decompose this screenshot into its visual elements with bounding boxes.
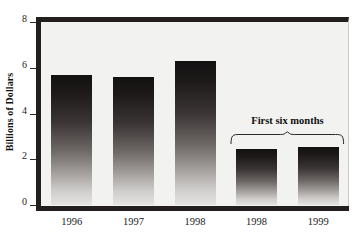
bar — [51, 75, 92, 205]
x-axis-label: 1998 — [226, 216, 288, 227]
y-axis-tick: 2 — [0, 159, 36, 160]
y-axis-tick-label: 2 — [22, 151, 27, 161]
y-axis-tick-label: 0 — [22, 197, 27, 207]
x-axis-label: 1997 — [103, 216, 165, 227]
bar — [298, 147, 339, 205]
bar-chart: Billions of Dollars 02468 19961997199819… — [0, 0, 354, 244]
bar — [175, 61, 216, 205]
x-axis-label: 1999 — [287, 216, 349, 227]
y-axis-tick: 8 — [0, 22, 36, 23]
y-axis-title: Billions of Dollars — [2, 52, 16, 172]
y-axis-tick-label: 8 — [22, 14, 27, 24]
y-axis-tick-label: 6 — [22, 60, 27, 70]
y-axis-tick-mark — [30, 114, 36, 115]
annotation-label: First six months — [230, 115, 345, 126]
x-axis-label: 1996 — [41, 216, 103, 227]
y-axis-tick-mark — [30, 22, 36, 23]
y-axis-tick-mark — [30, 159, 36, 160]
y-axis-title-label: Billions of Dollars — [4, 73, 15, 152]
x-axis-label: 1998 — [164, 216, 226, 227]
y-axis-tick: 0 — [0, 205, 36, 206]
y-axis-tick: 4 — [0, 114, 36, 115]
y-axis-tick: 6 — [0, 68, 36, 69]
y-axis-tick-mark — [30, 205, 36, 206]
bar — [113, 77, 154, 205]
plot-area — [41, 22, 349, 205]
bar — [236, 149, 277, 205]
y-axis-tick-label: 4 — [22, 106, 27, 116]
y-axis-tick-mark — [30, 68, 36, 69]
